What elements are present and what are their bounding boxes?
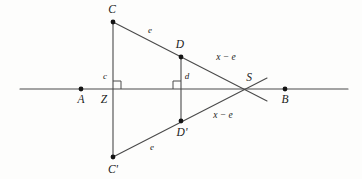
segment-label-d-height: d bbox=[185, 72, 190, 81]
point-marker-Cp bbox=[111, 155, 116, 160]
point-label-A: A bbox=[77, 94, 84, 106]
point-marker-Dp bbox=[179, 119, 184, 124]
segment-label-c-height: c bbox=[103, 72, 107, 81]
segment-label-xe-upper: x − e bbox=[216, 53, 236, 63]
point-marker-B bbox=[283, 87, 288, 92]
segment-label-xe-lower: x − e bbox=[213, 111, 233, 121]
point-label-D: D bbox=[176, 39, 184, 51]
figure-canvas bbox=[0, 0, 362, 179]
point-label-S: S bbox=[246, 72, 252, 84]
right-angle-at-D-foot bbox=[173, 81, 181, 89]
segment-label-e-upper: e bbox=[148, 26, 152, 35]
point-marker-D bbox=[179, 55, 184, 60]
point-label-B: B bbox=[281, 94, 288, 106]
point-label-Z: Z bbox=[101, 94, 107, 106]
right-angle-at-Z bbox=[113, 81, 121, 89]
point-label-C: C bbox=[108, 4, 116, 16]
segment-label-e-lower: e bbox=[150, 143, 154, 152]
right-angle-markers-group bbox=[113, 81, 181, 89]
point-marker-A bbox=[79, 87, 84, 92]
ray-Cprime-through-S bbox=[113, 78, 267, 157]
geometry-figure: CDSAZBD'C'ex − ex − eecd bbox=[0, 0, 362, 179]
point-label-Dp: D' bbox=[177, 127, 188, 139]
point-label-Cp: C' bbox=[108, 164, 118, 176]
point-marker-C bbox=[111, 20, 116, 25]
